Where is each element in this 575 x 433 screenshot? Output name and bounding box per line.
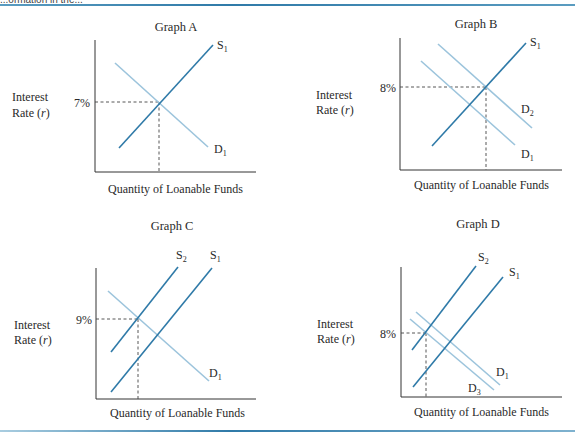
graph-c-xlabel: Quantity of Loanable Funds	[110, 406, 245, 420]
graph-a-ylabel-line1: Interest	[12, 90, 49, 104]
graph-b-supply-s1	[432, 43, 526, 146]
graph-a-axes	[95, 40, 256, 172]
graph-b-xlabel: Quantity of Loanable Funds	[414, 178, 549, 192]
graph-d-s2-label: S2	[478, 250, 489, 266]
graph-a-title: Graph A	[155, 20, 198, 34]
graph-b-d2-label: D2	[521, 102, 534, 118]
graph-c-rate-label: 9%	[76, 313, 92, 327]
graph-b-demand-d1	[421, 61, 515, 145]
graph-c: Graph C Interest Rate (r) 9% S2 S1 D1 Qu…	[14, 219, 256, 420]
graph-d: Graph D Interest Rate (r) 8% S2 S1 D1 D3…	[317, 217, 562, 419]
graph-b-d1-label: D1	[521, 147, 534, 163]
graph-d-d3-label: D3	[468, 381, 481, 397]
graph-d-s1-label: S1	[509, 265, 520, 281]
graph-d-ylabel-line2: Rate (r)	[317, 332, 355, 346]
graph-b-demand-d2	[438, 44, 532, 128]
graph-d-demand-d1	[416, 312, 500, 385]
graph-d-rate-label: 8%	[380, 327, 396, 341]
graph-c-s1-label: S1	[210, 248, 221, 264]
graph-c-ylabel-line2: Rate (r)	[14, 333, 52, 347]
graph-d-ylabel-line1: Interest	[317, 317, 354, 331]
graph-b: Graph B Interest Rate (r) 8% S1 D2 D1 Qu…	[316, 17, 562, 192]
graph-d-title: Graph D	[456, 217, 499, 231]
graph-b-rate-label: 8%	[380, 81, 396, 95]
graph-a-supply-s1	[119, 45, 213, 148]
graph-c-axes	[96, 268, 256, 399]
graph-b-s1-label: S1	[530, 35, 541, 51]
graph-a-rate-label: 7%	[74, 96, 90, 110]
graph-a-s1-label: S1	[217, 38, 228, 54]
graph-a: Graph A Interest Rate (r) 7% S1 D1 Quant…	[12, 20, 256, 196]
graph-d-xlabel: Quantity of Loanable Funds	[414, 405, 549, 419]
graph-b-ylabel-line2: Rate (r)	[316, 103, 354, 117]
graph-b-axes	[400, 38, 562, 170]
graph-c-supply-s1	[111, 268, 212, 392]
graph-d-d1-label: D1	[496, 365, 509, 381]
graph-c-title: Graph C	[151, 219, 194, 233]
loanable-funds-graphs: Graph A Interest Rate (r) 7% S1 D1 Quant…	[0, 0, 575, 433]
graph-b-title: Graph B	[455, 17, 498, 31]
graph-c-d1-label: D1	[209, 366, 222, 382]
graph-d-demand-d3	[410, 319, 494, 390]
graph-c-ylabel-line1: Interest	[14, 318, 51, 332]
graph-a-xlabel: Quantity of Loanable Funds	[108, 182, 243, 196]
graph-a-d1-label: D1	[214, 142, 227, 158]
graph-c-s2-label: S2	[176, 248, 187, 264]
graph-b-ylabel-line1: Interest	[316, 88, 353, 102]
graph-c-supply-s2	[111, 267, 178, 352]
graph-d-supply-s2	[412, 266, 476, 350]
graph-a-ylabel-line2: Rate (r)	[12, 106, 50, 120]
graph-a-demand-d1	[115, 63, 208, 147]
